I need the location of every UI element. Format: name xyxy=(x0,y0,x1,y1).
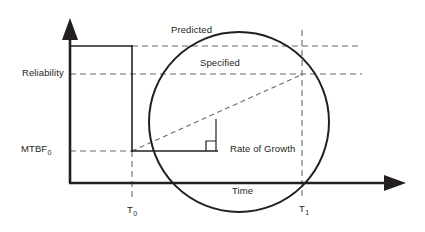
t0-subscript: 0 xyxy=(133,210,137,217)
y-axis-label-reliability: Reliability xyxy=(22,68,64,78)
x-axis-tick-label-t1: T1 xyxy=(299,204,309,214)
reliability-growth-diagram: Reliability MTBF0 Predicted Specified Ra… xyxy=(0,0,425,232)
y-axis-arrowhead-icon xyxy=(62,18,78,40)
x-axis-label-time: Time xyxy=(232,186,253,196)
t1-subscript: 1 xyxy=(305,209,309,216)
mtbf0-text: MTBF xyxy=(21,143,47,154)
x-axis-tick-label-t0: T0 xyxy=(127,205,137,215)
annotation-predicted: Predicted xyxy=(171,25,212,35)
annotation-rate-of-growth: Rate of Growth xyxy=(230,144,295,154)
right-angle-marker-icon xyxy=(206,141,216,151)
diagram-canvas xyxy=(0,0,425,232)
annotation-specified: Specified xyxy=(200,58,240,68)
mtbf0-subscript: 0 xyxy=(48,149,52,156)
x-axis-arrowhead-icon xyxy=(384,175,406,191)
y-axis-tick-label-mtbf0: MTBF0 xyxy=(21,144,51,154)
